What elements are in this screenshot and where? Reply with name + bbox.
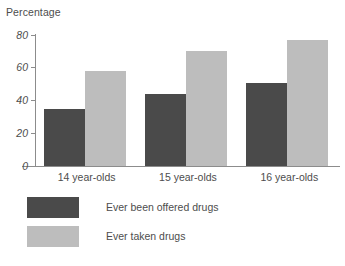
bar-chart: Percentage 020406080 14 year-olds15 year… bbox=[0, 0, 345, 266]
bar bbox=[246, 83, 287, 167]
legend: Ever been offered drugsEver taken drugs bbox=[27, 196, 218, 254]
bar-group bbox=[246, 35, 328, 166]
legend-label: Ever taken drugs bbox=[106, 230, 185, 242]
bar bbox=[186, 51, 227, 166]
y-axis-title: Percentage bbox=[6, 6, 61, 18]
bar bbox=[287, 40, 328, 166]
y-tick-label: 20 bbox=[16, 126, 28, 140]
bar bbox=[145, 94, 186, 166]
y-tick-label: 40 bbox=[16, 93, 28, 107]
x-axis-label: 16 year-olds bbox=[239, 171, 340, 183]
x-axis-line bbox=[22, 166, 340, 167]
legend-swatch bbox=[27, 226, 79, 247]
bar-group bbox=[44, 35, 126, 166]
plot-area bbox=[36, 35, 340, 166]
y-tick-label: 80 bbox=[16, 28, 28, 42]
x-axis-label: 15 year-olds bbox=[137, 171, 238, 183]
legend-label: Ever been offered drugs bbox=[106, 201, 218, 213]
legend-swatch bbox=[27, 197, 79, 218]
legend-item: Ever taken drugs bbox=[27, 225, 218, 247]
bar bbox=[44, 109, 85, 166]
y-tick-label: 60 bbox=[16, 60, 28, 74]
bar-group bbox=[145, 35, 227, 166]
y-tick-label: 0 bbox=[22, 159, 28, 173]
legend-item: Ever been offered drugs bbox=[27, 196, 218, 218]
x-axis-label: 14 year-olds bbox=[36, 171, 137, 183]
bar bbox=[85, 71, 126, 166]
